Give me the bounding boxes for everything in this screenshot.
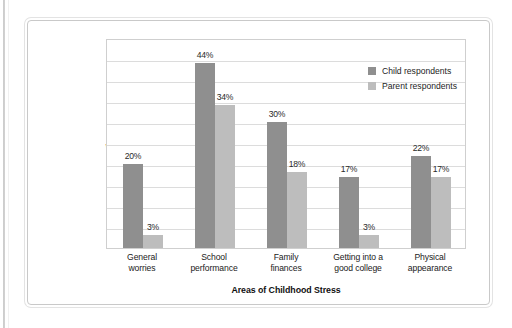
bar-parent[interactable]: 17% <box>431 177 451 248</box>
bar-child[interactable]: 22% <box>411 156 431 248</box>
x-tick-label-line: Physical <box>394 252 466 263</box>
bar-group: 20%3% <box>107 40 179 248</box>
bar-parent[interactable]: 3% <box>143 235 163 248</box>
x-tick-label-line: Getting into a <box>322 252 394 263</box>
x-tick-label-line: good college <box>322 263 394 274</box>
legend-item-parent[interactable]: Parent respondents <box>368 81 457 91</box>
bar-value-label: 44% <box>197 50 214 60</box>
figure-frame: Percentage of Respondents Who Say Child … <box>27 20 490 305</box>
bar-parent[interactable]: 3% <box>359 235 379 248</box>
bar-value-label: 20% <box>125 151 142 161</box>
x-tick-label-line: finances <box>250 263 322 274</box>
bar-parent[interactable]: 18% <box>287 172 307 248</box>
legend-label-child: Child respondents <box>382 66 451 76</box>
bar-child[interactable]: 17% <box>339 177 359 248</box>
bar-chart: Percentage of Respondents Who Say Child … <box>28 21 491 306</box>
bar-group: 44%34% <box>179 40 251 248</box>
bar-value-label: 30% <box>269 109 286 119</box>
x-tick-label: Physicalappearance <box>394 252 466 274</box>
page-left-edge-rule <box>3 0 5 328</box>
x-tick-label: Getting into agood college <box>322 252 394 274</box>
bar-value-label: 3% <box>147 222 159 232</box>
legend-swatch-icon-parent <box>368 82 376 90</box>
x-tick-label-line: General <box>106 252 178 263</box>
legend: Child respondents Parent respondents <box>368 66 457 91</box>
legend-swatch-icon-child <box>368 67 376 75</box>
bar-value-label: 22% <box>413 143 430 153</box>
x-tick-label: Schoolperformance <box>178 252 250 274</box>
bar-value-label: 34% <box>217 92 234 102</box>
bar-value-label: 18% <box>289 159 306 169</box>
x-axis-tick-labels: GeneralworriesSchoolperformanceFamilyfin… <box>106 252 466 284</box>
page-left-edge-rule-secondary <box>8 0 9 328</box>
x-axis-title: Areas of Childhood Stress <box>106 285 466 295</box>
legend-label-parent: Parent respondents <box>382 81 457 91</box>
plot-area: 20%3%44%34%30%18%17%3%22%17% Child respo… <box>106 39 466 249</box>
bar-child[interactable]: 44% <box>195 63 215 248</box>
x-tick-label: Generalworries <box>106 252 178 274</box>
x-tick-label-line: School <box>178 252 250 263</box>
bar-parent[interactable]: 34% <box>215 105 235 248</box>
x-tick-label-line: performance <box>178 263 250 274</box>
bar-value-label: 17% <box>433 164 450 174</box>
bar-group: 30%18% <box>251 40 323 248</box>
bar-value-label: 3% <box>363 222 375 232</box>
bar-child[interactable]: 20% <box>123 164 143 248</box>
bar-value-label: 17% <box>341 164 358 174</box>
x-tick-label-line: appearance <box>394 263 466 274</box>
bar-child[interactable]: 30% <box>267 122 287 248</box>
x-tick-label-line: worries <box>106 263 178 274</box>
x-tick-label: Familyfinances <box>250 252 322 274</box>
legend-item-child[interactable]: Child respondents <box>368 66 457 76</box>
x-tick-label-line: Family <box>250 252 322 263</box>
